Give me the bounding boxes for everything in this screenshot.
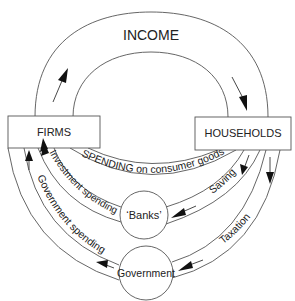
income-inner-arc <box>73 52 228 117</box>
taxation-arrow-icon <box>178 260 203 271</box>
firms-label: FIRMS <box>37 126 71 138</box>
saving-arrow-icon <box>171 206 196 218</box>
banks-label: ‘Banks’ <box>126 209 161 221</box>
income-band: INCOME <box>35 12 268 117</box>
saving-label: Saving <box>206 166 237 196</box>
firms-node: FIRMS <box>8 116 100 152</box>
households-label: HOUSEHOLDS <box>204 127 281 139</box>
saving-down-arrow-icon <box>240 155 249 175</box>
taxation-label: Taxation <box>217 210 253 245</box>
income-arrow-down-icon <box>232 77 247 111</box>
circular-flow-diagram: INCOME SPENDING on consumer goods Saving <box>0 0 295 301</box>
households-node: HOUSEHOLDS <box>195 117 291 150</box>
banks-node: ‘Banks’ <box>120 191 168 239</box>
income-label: INCOME <box>123 27 179 43</box>
government-label: Government <box>117 267 175 279</box>
government-spending-up-arrow-icon <box>25 150 33 170</box>
income-arrow-up-icon <box>53 68 68 102</box>
government-node: Government <box>117 246 175 300</box>
government-spending-arrow-icon <box>96 260 114 268</box>
